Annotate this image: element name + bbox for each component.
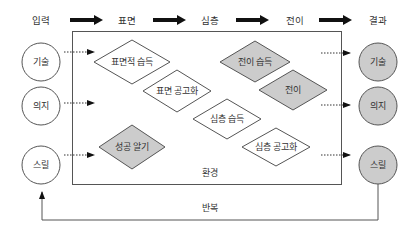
stage-arrow-1 <box>70 15 103 25</box>
svg-text:전이: 전이 <box>285 85 301 95</box>
svg-text:심층 공고화: 심층 공고화 <box>255 142 298 152</box>
stage-label-deep: 심층 <box>201 15 219 26</box>
environment-label: 환경 <box>202 167 218 178</box>
feedback-label: 반복 <box>202 203 218 213</box>
stage-label-surface: 표면 <box>118 15 136 26</box>
learning-model-diagram: 입력 표면 심층 전이 결과 환경 기술 의지 스릴 기술 <box>0 0 418 238</box>
svg-text:의지: 의지 <box>33 101 49 111</box>
node-deep-consolidation: 심층 공고화 <box>242 128 310 166</box>
output-circle-will: 의지 <box>359 87 397 125</box>
stage-label-input: 입력 <box>32 15 50 26</box>
svg-text:심층 습득: 심층 습득 <box>210 114 245 124</box>
output-circle-thrill: 스릴 <box>359 146 397 184</box>
svg-text:스릴: 스릴 <box>33 160 49 170</box>
input-circle-skill: 기술 <box>22 43 60 81</box>
stage-label-outcome: 결과 <box>369 15 387 26</box>
node-surface-acquisition: 표면적 습득 <box>94 40 170 84</box>
stage-label-transfer: 전이 <box>286 15 304 26</box>
node-deep-acquisition: 심층 습득 <box>193 99 261 139</box>
stage-arrow-4 <box>319 15 352 25</box>
svg-text:표면적 습득: 표면적 습득 <box>111 56 154 67</box>
output-circle-skill: 기술 <box>359 43 397 81</box>
node-transfer-acquisition: 전이 습득 <box>220 41 290 82</box>
svg-text:성공 알기: 성공 알기 <box>115 142 150 152</box>
node-transfer: 전이 <box>259 70 327 110</box>
stage-arrow-3 <box>236 15 269 25</box>
svg-text:기술: 기술 <box>33 57 49 67</box>
svg-text:의지: 의지 <box>370 101 386 111</box>
stage-arrow-2 <box>153 15 186 25</box>
node-knowing-success: 성공 알기 <box>99 125 165 169</box>
svg-text:전이 습득: 전이 습득 <box>238 57 273 67</box>
svg-text:스릴: 스릴 <box>370 160 386 170</box>
svg-text:기술: 기술 <box>370 57 386 67</box>
input-circle-thrill: 스릴 <box>22 146 60 184</box>
node-surface-consolidation: 표면 공고화 <box>143 70 211 112</box>
svg-text:표면 공고화: 표면 공고화 <box>156 86 199 96</box>
feedback-loop-line <box>42 184 378 220</box>
input-circle-will: 의지 <box>22 87 60 125</box>
